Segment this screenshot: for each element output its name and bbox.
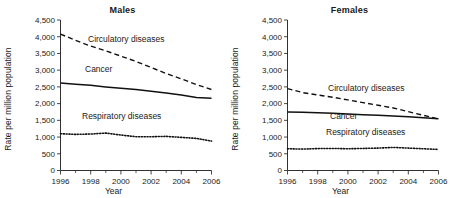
x-tick-labels-males: 199619982000200220042006 (52, 177, 221, 186)
x-tick-label: 1998 (309, 177, 327, 186)
series-line-respiratory-males (61, 133, 212, 141)
series-line-respiratory-females (288, 147, 439, 149)
x-tick-label: 1996 (52, 177, 70, 186)
x-axis-label-males: Year (0, 186, 227, 196)
y-tick-label: 0 (51, 166, 56, 175)
y-tick-label: 3,000 (262, 66, 283, 75)
series-label-circulatory-males: Circulatory diseases (88, 34, 165, 44)
y-tick-label: 4,000 (262, 33, 283, 42)
plot-svg-females: 05001,0001,5002,0002,5003,0003,5004,0004… (227, 0, 455, 198)
x-axis-females: 199619982000200220042006 (279, 171, 448, 186)
y-tick-label: 2,000 (35, 99, 56, 108)
chart-panel-males: Males Rate per million population 05001,… (0, 0, 227, 198)
x-tick-label: 1998 (82, 177, 100, 186)
y-tick-label: 4,000 (35, 33, 56, 42)
y-axis-males: 05001,0001,5002,0002,5003,0003,5004,0004… (35, 16, 61, 176)
y-tick-labels-males: 05001,0001,5002,0002,5003,0003,5004,0004… (35, 16, 56, 176)
series-label-respiratory-females: Respiratory diseases (326, 127, 405, 137)
y-tick-label: 3,500 (262, 49, 283, 58)
y-tick-label: 2,500 (35, 83, 56, 92)
y-tick-label: 4,500 (262, 16, 283, 25)
series-lines-males (61, 34, 212, 141)
y-tick-label: 500 (269, 150, 283, 159)
y-tick-label: 1,000 (35, 133, 56, 142)
x-tick-label: 1996 (279, 177, 297, 186)
x-tick-label: 2004 (399, 177, 417, 186)
y-tick-label: 2,500 (262, 83, 283, 92)
y-tick-label: 1,500 (35, 116, 56, 125)
y-axis-females: 05001,0001,5002,0002,5003,0003,5004,0004… (262, 16, 288, 176)
y-tick-label: 1,500 (262, 116, 283, 125)
series-inline-labels-females: Circulatory diseases Cancer Respiratory … (326, 83, 405, 137)
y-ticks-males (57, 20, 61, 171)
x-tick-label: 2004 (172, 177, 190, 186)
series-line-cancer-males (61, 83, 212, 98)
y-tick-label: 1,000 (262, 133, 283, 142)
x-axis-label-females: Year (227, 186, 454, 196)
y-tick-label: 4,500 (35, 16, 56, 25)
chart-panel-females: Females Rate per million population 0500… (227, 0, 454, 198)
y-tick-labels-females: 05001,0001,5002,0002,5003,0003,5004,0004… (262, 16, 283, 176)
y-tick-label: 3,500 (35, 49, 56, 58)
dual-line-chart-figure: Males Rate per million population 05001,… (0, 0, 455, 198)
series-line-cancer-females (288, 112, 439, 119)
y-tick-label: 2,000 (262, 99, 283, 108)
series-label-circulatory-females: Circulatory diseases (328, 83, 405, 93)
x-tick-label: 2006 (203, 177, 221, 186)
x-tick-label: 2002 (142, 177, 160, 186)
series-lines-females (288, 89, 439, 150)
series-label-respiratory-males: Respiratory diseases (82, 111, 161, 121)
x-ticks-females (288, 171, 439, 175)
x-axis-males: 199619982000200220042006 (52, 171, 221, 186)
plot-svg-males: 05001,0001,5002,0002,5003,0003,5004,0004… (0, 0, 227, 198)
series-label-cancer-males: Cancer (85, 64, 113, 74)
x-tick-labels-females: 199619982000200220042006 (279, 177, 448, 186)
x-tick-label: 2002 (369, 177, 387, 186)
x-ticks-males (61, 171, 212, 175)
series-label-cancer-females: Cancer (330, 111, 358, 121)
y-tick-label: 0 (278, 166, 283, 175)
x-tick-label: 2000 (112, 177, 130, 186)
y-tick-label: 500 (42, 150, 56, 159)
y-ticks-females (284, 20, 288, 171)
x-tick-label: 2006 (430, 177, 448, 186)
y-tick-label: 3,000 (35, 66, 56, 75)
x-tick-label: 2000 (339, 177, 357, 186)
